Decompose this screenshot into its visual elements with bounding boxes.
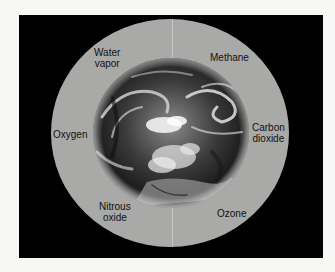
- label-carbon-dioxide: Carbon dioxide: [252, 122, 285, 144]
- diagram-frame: Water vapor Methane Oxygen Carbon dioxid…: [19, 15, 323, 258]
- label-ozone: Ozone: [217, 208, 246, 219]
- label-methane: Methane: [210, 52, 249, 63]
- label-nitrous-oxide: Nitrous oxide: [99, 201, 131, 223]
- label-oxygen: Oxygen: [53, 129, 87, 140]
- label-water-vapor: Water vapor: [94, 47, 120, 69]
- earth-globe-icon: [92, 57, 250, 209]
